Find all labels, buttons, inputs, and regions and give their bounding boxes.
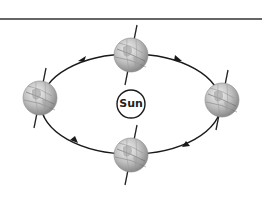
earth-globe-top [114, 25, 148, 85]
earth-globe-left [23, 68, 57, 128]
earth-globe-bottom [114, 125, 148, 185]
sun-label: Sun [116, 93, 146, 115]
diagram-canvas: Sun [0, 0, 262, 200]
earth-globe-right [205, 70, 239, 130]
